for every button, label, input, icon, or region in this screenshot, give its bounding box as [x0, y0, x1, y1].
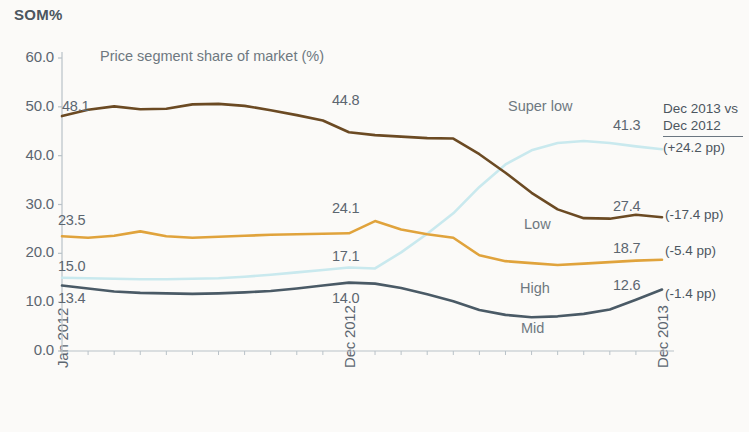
data-label-mid-end: 12.6: [613, 277, 640, 293]
x-axis-tick-label: Dec 2012: [341, 305, 358, 368]
data-label-low-start: 48.1: [62, 98, 89, 114]
series-line-super-low: [62, 141, 662, 279]
comparison-line-1: Dec 2013 vs: [663, 100, 743, 117]
y-axis-tick-label: 10.0: [0, 292, 54, 309]
y-axis-tick-label: 40.0: [0, 146, 54, 163]
data-label-low-mid: 44.8: [332, 92, 359, 108]
chart-canvas: SOM% Price segment share of market (%) 0…: [0, 0, 749, 432]
comparison-line-2: Dec 2012: [663, 117, 743, 136]
y-axis-tick-label: 20.0: [0, 243, 54, 260]
plot-area: [0, 0, 749, 432]
data-label-low-end: 27.4: [613, 198, 640, 214]
data-label-mid-start: 13.4: [58, 290, 85, 306]
y-axis-tick-label: 50.0: [0, 97, 54, 114]
delta-label-low: (-17.4 pp): [665, 207, 724, 222]
data-label-superlow-end: 41.3: [613, 117, 640, 133]
page-title: SOM%: [14, 6, 63, 23]
data-label-mid-mid: 14.0: [332, 290, 359, 306]
data-label-superlow-mid: 17.1: [332, 248, 359, 264]
x-axis-tick-label: Dec 2013: [654, 305, 671, 368]
series-label-superlow: Super low: [508, 98, 572, 114]
chart-title: Price segment share of market (%): [100, 48, 324, 64]
data-label-high-end: 18.7: [613, 240, 640, 256]
y-axis-tick-label: 0.0: [0, 341, 54, 358]
y-axis-tick-label: 60.0: [0, 48, 54, 65]
series-label-high: High: [520, 280, 550, 296]
x-axis-tick-label: Jan 2012: [54, 308, 71, 368]
delta-label-high: (-5.4 pp): [665, 243, 716, 258]
data-label-high-mid: 24.1: [332, 200, 359, 216]
data-label-high-start: 23.5: [58, 212, 85, 228]
data-label-superlow-start: 15.0: [58, 258, 85, 274]
delta-label-mid: (-1.4 pp): [665, 286, 716, 301]
series-line-low: [62, 104, 662, 219]
y-axis-tick-label: 30.0: [0, 195, 54, 212]
comparison-annotation: Dec 2013 vs Dec 2012 (+24.2 pp): [663, 100, 743, 156]
comparison-line-3: (+24.2 pp): [663, 137, 743, 156]
series-label-low: Low: [524, 216, 551, 232]
series-label-mid: Mid: [521, 320, 544, 336]
series-line-mid: [62, 283, 662, 318]
series-line-high: [62, 221, 662, 265]
